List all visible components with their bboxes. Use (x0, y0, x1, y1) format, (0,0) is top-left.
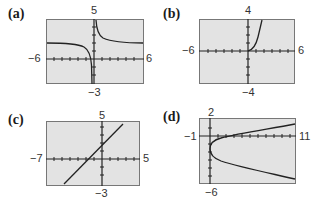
tick-top: 5 (99, 109, 105, 121)
tick-right: 11 (299, 130, 310, 142)
tick-bottom: −6 (205, 186, 218, 198)
tick-bottom: −4 (242, 86, 255, 98)
tick-top: 2 (208, 106, 214, 118)
plot-area (199, 118, 296, 184)
plot-area (46, 121, 140, 186)
tick-top: 5 (91, 4, 97, 16)
tick-right: 6 (146, 52, 152, 64)
panel-label: (d) (163, 109, 180, 125)
plot-area (46, 19, 144, 84)
tick-left: −6 (28, 52, 41, 64)
panel-label: (a) (8, 6, 24, 22)
tick-bottom: −3 (88, 86, 101, 98)
tick-bottom: −3 (95, 187, 108, 199)
tick-right: 5 (143, 152, 149, 164)
panel-label: (c) (8, 112, 24, 128)
plot-area (199, 19, 295, 84)
tick-left: −7 (30, 152, 43, 164)
tick-top: 4 (245, 4, 251, 16)
panel-label: (b) (163, 6, 180, 22)
tick-right: 6 (298, 44, 304, 56)
tick-left: −1 (184, 130, 197, 142)
tick-left: −6 (182, 44, 195, 56)
